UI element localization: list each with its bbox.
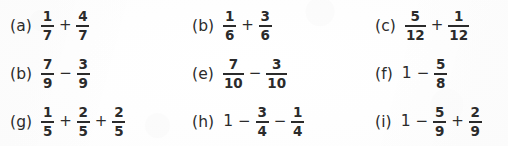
fraction: 34 xyxy=(256,105,269,138)
operator: − xyxy=(274,114,287,129)
fraction-numerator: 3 xyxy=(260,9,271,24)
exercise-label: (b) xyxy=(192,17,214,35)
fraction-denominator: 7 xyxy=(77,28,88,43)
operator: − xyxy=(416,114,429,129)
fraction-denominator: 5 xyxy=(42,124,53,139)
exercise-label: (a) xyxy=(10,17,32,35)
fraction: 29 xyxy=(469,105,482,138)
fraction-denominator: 5 xyxy=(113,124,124,139)
exercise-label: (h) xyxy=(192,113,214,131)
fraction-denominator: 9 xyxy=(78,76,89,91)
fraction: 14 xyxy=(291,105,304,138)
fraction-denominator: 12 xyxy=(448,28,469,43)
fraction-numerator: 3 xyxy=(78,57,89,72)
exercise-label: (b) xyxy=(10,65,32,83)
expression: 17+47 xyxy=(41,9,90,42)
fraction-numerator: 1 xyxy=(224,9,235,24)
fraction-numerator: 1 xyxy=(292,105,303,120)
expression: 1−59+29 xyxy=(401,105,482,138)
expression: 512+112 xyxy=(405,9,469,42)
exercise-row: (b)79−39(e)710−310(f)1−58 xyxy=(0,50,508,98)
exercise-label: (e) xyxy=(192,65,214,83)
exercise-row: (g)15+25+25(h)1−34−14(i)1−59+29 xyxy=(0,98,508,146)
fraction: 79 xyxy=(41,57,54,90)
fraction-numerator: 2 xyxy=(470,105,481,120)
fraction-denominator: 10 xyxy=(266,76,287,91)
exercise-item: (g)15+25+25 xyxy=(10,98,125,146)
fraction-denominator: 8 xyxy=(435,76,446,91)
fraction-denominator: 4 xyxy=(292,124,303,139)
fraction-numerator: 3 xyxy=(256,105,267,120)
operator: − xyxy=(59,66,72,81)
operator: − xyxy=(238,114,251,129)
fraction: 25 xyxy=(77,105,90,138)
worksheet-page: (a)17+47(b)16+36(c)512+112(b)79−39(e)710… xyxy=(0,0,508,146)
fraction-denominator: 6 xyxy=(224,28,235,43)
exercise-label: (i) xyxy=(375,113,392,131)
fraction: 39 xyxy=(77,57,90,90)
fraction-denominator: 9 xyxy=(470,124,481,139)
exercise-item: (e)710−310 xyxy=(192,50,287,98)
exercise-label: (g) xyxy=(10,113,32,131)
expression: 79−39 xyxy=(41,57,90,90)
fraction-denominator: 5 xyxy=(78,124,89,139)
whole-number: 1 xyxy=(402,66,412,82)
expression: 1−34−14 xyxy=(223,105,304,138)
fraction: 47 xyxy=(76,9,89,42)
fraction: 36 xyxy=(259,9,272,42)
exercise-item: (h)1−34−14 xyxy=(192,98,304,146)
fraction-denominator: 9 xyxy=(42,76,53,91)
fraction: 512 xyxy=(405,9,426,42)
whole-number: 1 xyxy=(223,114,233,130)
operator: + xyxy=(451,114,464,129)
fraction-numerator: 1 xyxy=(42,105,53,120)
exercise-item: (c)512+112 xyxy=(375,2,469,50)
fraction-numerator: 7 xyxy=(228,57,239,72)
fraction-numerator: 1 xyxy=(42,9,53,24)
fraction-numerator: 1 xyxy=(453,9,464,24)
fraction-denominator: 9 xyxy=(434,124,445,139)
operator: + xyxy=(431,18,444,33)
fraction: 112 xyxy=(448,9,469,42)
fraction-numerator: 5 xyxy=(410,9,421,24)
fraction: 58 xyxy=(434,57,447,90)
fraction-denominator: 7 xyxy=(42,28,53,43)
expression: 1−58 xyxy=(402,57,447,90)
exercise-item: (f)1−58 xyxy=(375,50,447,98)
fraction: 17 xyxy=(41,9,54,42)
exercise-item: (b)79−39 xyxy=(10,50,90,98)
operator: + xyxy=(241,18,254,33)
fraction: 710 xyxy=(223,57,244,90)
fraction-numerator: 7 xyxy=(42,57,53,72)
exercise-item: (i)1−59+29 xyxy=(375,98,482,146)
fraction-denominator: 10 xyxy=(223,76,244,91)
fraction-numerator: 4 xyxy=(77,9,88,24)
operator: + xyxy=(95,114,108,129)
whole-number: 1 xyxy=(401,114,411,130)
exercise-row: (a)17+47(b)16+36(c)512+112 xyxy=(0,2,508,50)
operator: + xyxy=(59,114,72,129)
fraction: 59 xyxy=(433,105,446,138)
exercise-label: (f) xyxy=(375,65,393,83)
exercise-item: (b)16+36 xyxy=(192,2,272,50)
fraction: 310 xyxy=(266,57,287,90)
fraction-numerator: 2 xyxy=(113,105,124,120)
expression: 15+25+25 xyxy=(41,105,125,138)
fraction-numerator: 2 xyxy=(78,105,89,120)
exercise-item: (a)17+47 xyxy=(10,2,89,50)
fraction-numerator: 5 xyxy=(434,105,445,120)
fraction: 16 xyxy=(223,9,236,42)
expression: 710−310 xyxy=(223,57,287,90)
operator: + xyxy=(59,18,72,33)
expression: 16+36 xyxy=(223,9,272,42)
fraction-denominator: 6 xyxy=(260,28,271,43)
fraction: 25 xyxy=(112,105,125,138)
operator: − xyxy=(249,66,262,81)
fraction-numerator: 3 xyxy=(271,57,282,72)
fraction-denominator: 12 xyxy=(405,28,426,43)
fraction-denominator: 4 xyxy=(256,124,267,139)
fraction-numerator: 5 xyxy=(435,57,446,72)
exercise-label: (c) xyxy=(375,17,396,35)
fraction: 15 xyxy=(41,105,54,138)
operator: − xyxy=(417,66,430,81)
